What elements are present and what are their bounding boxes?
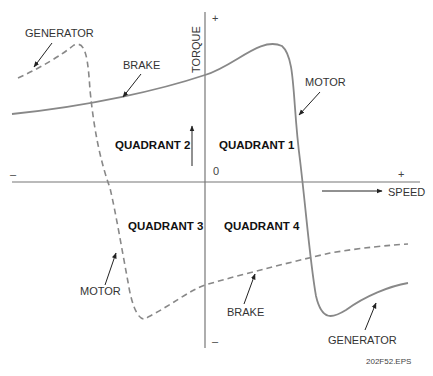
solid-torque-curve [12,44,408,316]
quadrant-1-label: QUADRANT 1 [219,139,295,151]
motor-left-pointer [105,253,116,285]
quadrant-4-label: QUADRANT 4 [224,220,300,232]
speed-axis-label: SPEED [388,186,425,198]
motor-left-label: MOTOR [80,285,121,297]
brake-bottom-pointer [244,274,255,304]
origin-label: 0 [213,165,219,177]
generator-bottom-pointer [365,303,376,330]
quadrant-2-label: QUADRANT 2 [115,139,190,151]
brake-bottom-label: BRAKE [227,306,264,318]
figure-id: 202F52.EPS [366,357,411,366]
brake-top-label: BRAKE [123,59,160,71]
generator-top-label: GENERATOR [25,27,94,39]
y-plus-sign: + [212,12,218,24]
generator-top-pointer [34,43,52,67]
x-minus-sign: – [10,168,17,180]
torque-axis-label: TORQUE [190,26,202,73]
four-quadrant-diagram: + – – + 0 TORQUE SPEED QUADRANT 1 QUADRA… [0,0,433,376]
x-plus-sign: + [398,168,404,180]
motor-right-pointer [299,92,320,115]
motor-right-label: MOTOR [305,76,346,88]
generator-bottom-label: GENERATOR [328,334,397,346]
quadrant-3-label: QUADRANT 3 [128,220,203,232]
y-minus-sign: – [212,335,219,347]
